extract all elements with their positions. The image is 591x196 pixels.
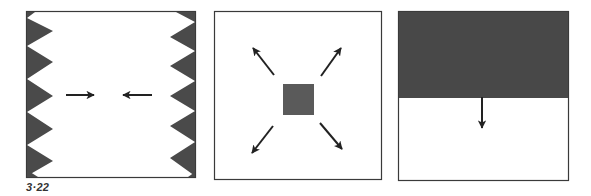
figure-canvas: [0, 0, 591, 196]
dark-upper-region: [399, 12, 568, 98]
center-square: [283, 84, 314, 115]
panel-frame: [27, 12, 196, 178]
panel-expanding: [215, 12, 382, 180]
panel-descending: [399, 12, 569, 181]
panel-converging: [27, 12, 196, 178]
figure-label: 3·22: [26, 181, 49, 193]
